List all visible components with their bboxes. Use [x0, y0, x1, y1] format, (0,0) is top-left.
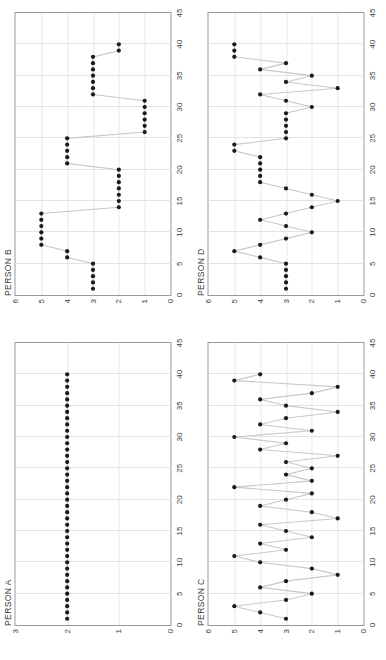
data-point	[65, 604, 69, 608]
x-axis-tick-label: 0	[367, 623, 376, 627]
data-point	[283, 579, 287, 583]
data-point	[65, 485, 69, 489]
x-axis-tick-label: 20	[367, 165, 376, 174]
data-point	[335, 410, 339, 414]
data-point	[39, 218, 43, 222]
data-point	[335, 199, 339, 203]
data-point	[90, 280, 94, 284]
y-axis-tick-label: 5	[229, 629, 238, 641]
panel-title-person-a: PERSON A	[2, 579, 12, 626]
data-point	[142, 105, 146, 109]
plot-area-person-d: 0510152025303540450123456	[207, 12, 364, 296]
y-axis-tick-label: 1	[114, 629, 123, 641]
data-point	[258, 92, 262, 96]
data-point	[90, 268, 94, 272]
data-point	[65, 548, 69, 552]
data-point	[116, 180, 120, 184]
data-point	[116, 42, 120, 46]
x-axis-tick-label: 10	[367, 228, 376, 237]
data-point	[283, 473, 287, 477]
data-point	[65, 598, 69, 602]
x-axis-tick-label: 25	[367, 134, 376, 143]
data-point	[65, 429, 69, 433]
y-axis-tick-label: 4	[255, 629, 264, 641]
data-point	[90, 61, 94, 65]
data-point	[65, 585, 69, 589]
data-point	[283, 80, 287, 84]
data-point	[90, 274, 94, 278]
y-axis-tick-label: 1	[140, 299, 149, 311]
data-point	[65, 161, 69, 165]
panel-person-a: PERSON A 0510152025303540450123	[0, 330, 193, 660]
data-point	[65, 617, 69, 621]
data-point	[335, 385, 339, 389]
data-point	[65, 410, 69, 414]
data-point	[309, 510, 313, 514]
data-point	[65, 610, 69, 614]
data-point	[65, 466, 69, 470]
x-axis-tick-label: 45	[174, 9, 183, 18]
data-point	[283, 529, 287, 533]
data-point	[335, 86, 339, 90]
data-point	[65, 422, 69, 426]
x-axis-tick-label: 10	[367, 558, 376, 567]
plot-area-person-c: 0510152025303540450123456	[207, 342, 364, 626]
data-point	[283, 117, 287, 121]
data-point	[90, 86, 94, 90]
y-axis-tick-label: 0	[166, 629, 175, 641]
panel-title-person-d: PERSON D	[195, 248, 205, 296]
y-axis-tick-label: 0	[359, 299, 368, 311]
data-point	[116, 49, 120, 53]
x-axis-tick-label: 35	[367, 71, 376, 80]
data-point	[90, 80, 94, 84]
data-point	[142, 124, 146, 128]
x-axis-tick-label: 30	[174, 103, 183, 112]
data-point	[65, 447, 69, 451]
data-point	[335, 454, 339, 458]
data-point	[232, 143, 236, 147]
data-point	[309, 479, 313, 483]
data-point	[258, 255, 262, 259]
y-axis-tick-label: 3	[281, 629, 290, 641]
data-point	[309, 567, 313, 571]
data-point	[283, 211, 287, 215]
data-point	[258, 67, 262, 71]
y-axis-tick-label: 2	[114, 299, 123, 311]
x-axis-tick-label: 20	[367, 495, 376, 504]
panel-person-c: PERSON C 0510152025303540450123456	[193, 330, 386, 660]
data-point	[309, 592, 313, 596]
data-point	[90, 67, 94, 71]
data-point	[309, 205, 313, 209]
data-point	[283, 130, 287, 134]
data-point	[116, 168, 120, 172]
x-axis-tick-label: 5	[367, 261, 376, 265]
data-point	[232, 604, 236, 608]
data-point	[283, 460, 287, 464]
data-point	[142, 111, 146, 115]
data-point	[65, 372, 69, 376]
data-point	[90, 262, 94, 266]
data-point	[90, 287, 94, 291]
chart-person-c: PERSON C 0510152025303540450123456	[193, 330, 386, 660]
data-point	[283, 237, 287, 241]
data-point	[258, 243, 262, 247]
y-axis-tick-label: 2	[62, 629, 71, 641]
data-point	[232, 42, 236, 46]
data-point	[65, 491, 69, 495]
x-axis-tick-label: 15	[367, 197, 376, 206]
x-axis-tick-label: 40	[367, 40, 376, 49]
panel-title-person-b: PERSON B	[2, 249, 12, 296]
data-point	[65, 441, 69, 445]
data-point	[283, 186, 287, 190]
data-point	[335, 573, 339, 577]
data-point	[90, 92, 94, 96]
y-axis-tick-label: 5	[36, 299, 45, 311]
y-axis-tick-label: 4	[62, 299, 71, 311]
x-axis-tick-label: 35	[174, 401, 183, 410]
panel-person-d: PERSON D 0510152025303540450123456	[193, 0, 386, 330]
data-point	[232, 554, 236, 558]
data-point	[39, 237, 43, 241]
data-point	[65, 592, 69, 596]
data-point	[258, 422, 262, 426]
data-point	[232, 49, 236, 53]
